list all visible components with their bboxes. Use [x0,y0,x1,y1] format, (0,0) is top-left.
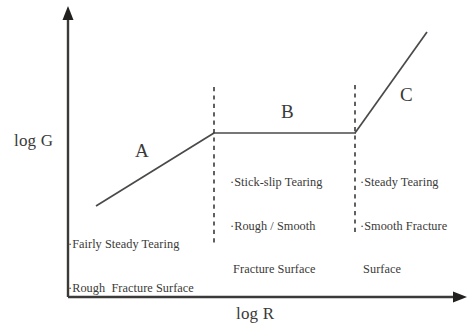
curve-branch-a [96,133,214,206]
region-b-annotation-line-2: ·Rough / Smooth [230,219,322,234]
y-axis-arrowhead [63,6,74,20]
region-b-annotation-line-3: Fracture Surface [230,262,322,277]
x-axis-arrowhead [453,292,467,303]
region-c-annotation-line-2: ·Smooth Fracture [360,219,447,234]
region-a-annotation: ·Fairly Steady Tearing ·Rough Fracture S… [68,208,194,324]
region-b-annotation-line-1: ·Stick-slip Tearing [230,175,322,190]
region-b-annotation: ·Stick-slip Tearing ·Rough / Smooth Frac… [230,146,322,306]
tearing-energy-schematic-figure: log G log R A B C ·Fairly Steady Tearing… [0,0,473,336]
region-a-annotation-line-2: ·Rough Fracture Surface [68,281,194,296]
region-c-annotation-line-1: ·Steady Tearing [360,175,447,190]
x-axis-label: log R [236,304,274,324]
region-label-b: B [281,101,294,123]
region-a-annotation-line-1: ·Fairly Steady Tearing [68,237,194,252]
region-c-annotation-line-3: Surface [360,262,447,277]
region-label-c: C [400,84,413,106]
curve-branch-c [355,32,427,133]
region-label-a: A [135,140,149,162]
region-c-annotation: ·Steady Tearing ·Smooth Fracture Surface [360,146,447,306]
y-axis-label: log G [14,131,53,151]
